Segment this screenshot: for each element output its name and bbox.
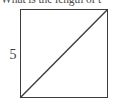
side-length-label: 5 bbox=[7, 46, 19, 63]
diagonal-line bbox=[20, 9, 108, 98]
geometry-problem-figure: What is the length of t 5 bbox=[0, 0, 113, 104]
question-text: What is the length of t bbox=[1, 0, 113, 6]
square-diagram bbox=[20, 9, 108, 98]
